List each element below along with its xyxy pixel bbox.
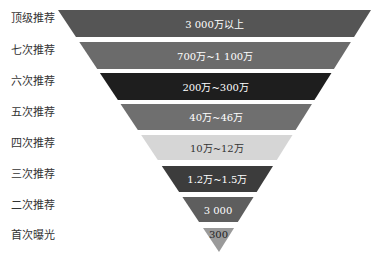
funnel-band-value-7: 3 000 xyxy=(204,205,233,216)
funnel-band-value-3: 200万~300万 xyxy=(182,82,249,93)
funnel-band-value-4: 40万~46万 xyxy=(189,112,243,123)
funnel-band-value-8: 300 xyxy=(209,229,228,240)
funnel-band-value-2: 700万~1 100万 xyxy=(177,51,253,62)
funnel-band-value-6: 1.2万~1.5万 xyxy=(187,174,247,185)
funnel-band-value-5: 10万~12万 xyxy=(190,143,244,154)
funnel-chart: 3 000万以上700万~1 100万200万~300万40万~46万10万~1… xyxy=(0,0,383,266)
funnel-band-value-1: 3 000万以上 xyxy=(185,19,244,30)
